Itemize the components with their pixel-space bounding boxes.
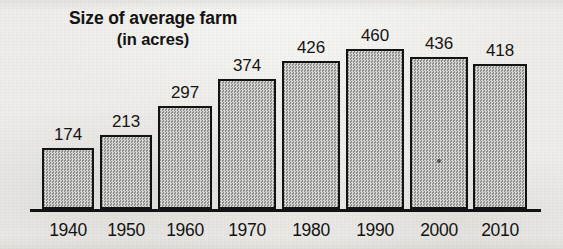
- bar-group: 4261980: [282, 61, 340, 209]
- bar-group: 4182010: [473, 64, 527, 209]
- bar-category-label-2000: 2000: [420, 220, 458, 241]
- bar-value-label: 436: [425, 34, 453, 54]
- bar-rect[interactable]: [346, 49, 404, 209]
- bar-rect[interactable]: [218, 79, 276, 209]
- chart-title: Size of average farm (in acres): [46, 8, 260, 49]
- bar-group: 1741940: [42, 148, 94, 209]
- bar-rect[interactable]: [410, 57, 468, 209]
- bar-value-label: 174: [54, 125, 82, 145]
- bar-group: 2971960: [158, 106, 212, 209]
- bar-rect[interactable]: [473, 64, 527, 209]
- bar-group: 3741970: [218, 79, 276, 209]
- chart-title-main: Size of average farm: [46, 8, 260, 29]
- baseline-axis: [30, 209, 541, 212]
- bar-category-label-1980: 1980: [292, 220, 330, 241]
- bar-category-label-2010: 2010: [481, 220, 519, 241]
- bar-rect[interactable]: [282, 61, 340, 209]
- bar-category-label-1990: 1990: [356, 220, 394, 241]
- bar-group: 4362000: [410, 57, 468, 209]
- scan-artifact-speck: [437, 159, 441, 163]
- bar-rect[interactable]: [42, 148, 94, 209]
- bar-value-label: 297: [171, 83, 199, 103]
- chart-title-subtitle: (in acres): [46, 29, 260, 49]
- bar-rect[interactable]: [100, 135, 152, 209]
- bar-category-label-1970: 1970: [228, 220, 266, 241]
- bar-category-label-1960: 1960: [166, 220, 204, 241]
- bar-category-label-1940: 1940: [49, 220, 87, 241]
- chart-canvas: Size of average farm (in acres) 17419402…: [0, 0, 563, 249]
- bar-group: 2131950: [100, 135, 152, 209]
- bar-category-label-1950: 1950: [107, 220, 145, 241]
- bar-value-label: 460: [361, 26, 389, 46]
- bar-value-label: 426: [297, 38, 325, 58]
- bar-value-label: 374: [233, 56, 261, 76]
- bar-rect[interactable]: [158, 106, 212, 209]
- bar-value-label: 418: [486, 41, 514, 61]
- bar-value-label: 213: [112, 112, 140, 132]
- bar-group: 4601990: [346, 49, 404, 209]
